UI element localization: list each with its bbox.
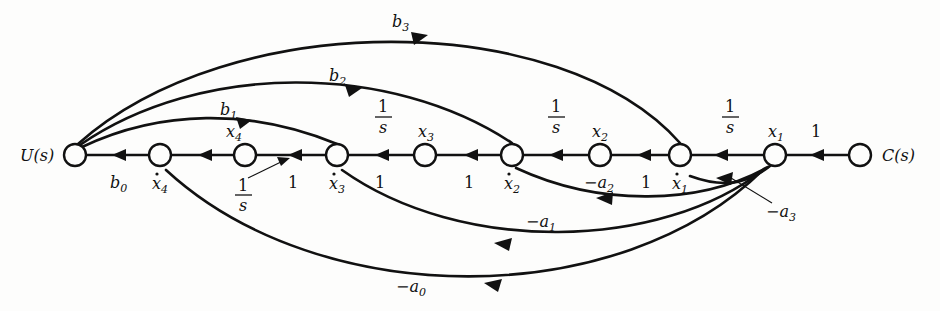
label-gain-a3: −a3 bbox=[766, 202, 796, 224]
arrowhead-x1dot-x1 bbox=[714, 149, 728, 161]
gain-labels-b: b0 b1 b2 b3 bbox=[110, 12, 409, 195]
label-gain-one-b: 1 bbox=[375, 173, 385, 192]
label-input-u: U(s) bbox=[20, 146, 54, 165]
arrowhead-a1 bbox=[494, 238, 512, 251]
node-x1-dot[interactable] bbox=[669, 144, 691, 166]
label-output-c: C(s) bbox=[882, 146, 915, 165]
arrowhead-x3-x2dot bbox=[464, 149, 478, 161]
node-c[interactable] bbox=[849, 144, 871, 166]
label-gain-a1: −a1 bbox=[526, 212, 556, 234]
gain-labels-a: −a0 −a1 −a2 −a3 bbox=[396, 173, 796, 299]
fraction-numerator-a: 1 bbox=[238, 176, 248, 195]
label-x1-dot-below: x1 bbox=[672, 174, 688, 196]
dot-accent-x1 bbox=[675, 172, 678, 175]
label-gain-b3: b3 bbox=[392, 12, 409, 34]
arrowhead-x1-c bbox=[810, 149, 824, 161]
arrowhead-b1 bbox=[236, 117, 252, 129]
node-u[interactable] bbox=[64, 144, 86, 166]
fraction-1-over-s-c: 1 s bbox=[548, 97, 565, 137]
node-x1[interactable] bbox=[764, 144, 786, 166]
fraction-numerator-b: 1 bbox=[378, 97, 388, 116]
label-gain-one-d: 1 bbox=[641, 173, 651, 192]
fraction-denominator-a: s bbox=[239, 196, 247, 215]
fraction-denominator-d: s bbox=[726, 118, 734, 137]
label-x3-above: x3 bbox=[418, 122, 434, 144]
node-x4[interactable] bbox=[234, 144, 256, 166]
arrowhead-x4dot-x4 bbox=[198, 149, 212, 161]
node-x2-dot[interactable] bbox=[501, 144, 523, 166]
arrowhead-a0 bbox=[484, 279, 502, 292]
label-gain-a0: −a0 bbox=[396, 277, 426, 299]
label-gain-b0: b0 bbox=[110, 173, 127, 195]
label-gain-one-a: 1 bbox=[288, 173, 298, 192]
fraction-numerator-d: 1 bbox=[725, 97, 735, 116]
node-x4-dot[interactable] bbox=[149, 144, 171, 166]
edge-b2-u-to-x2dot bbox=[80, 82, 512, 145]
fraction-denominator-c: s bbox=[552, 118, 560, 137]
label-x1-above: x1 bbox=[768, 122, 784, 144]
dot-accent-x4 bbox=[155, 172, 158, 175]
node-x3[interactable] bbox=[414, 144, 436, 166]
fraction-denominator-b: s bbox=[379, 118, 387, 137]
label-x3-dot-below: x3 bbox=[329, 174, 345, 196]
label-gain-one-e: 1 bbox=[811, 122, 821, 141]
arrowhead-x3dot-x3 bbox=[375, 149, 389, 161]
fraction-1-over-s-d: 1 s bbox=[722, 97, 739, 137]
arrowhead-x2dot-x2 bbox=[549, 149, 563, 161]
signal-flow-graph-figure: U(s) C(s) x4 x3 x2 x1 x4 x3 x2 x1 bbox=[0, 0, 940, 311]
fraction-numerator-c: 1 bbox=[551, 97, 561, 116]
dot-accent-x2 bbox=[507, 172, 510, 175]
dot-accent-x3 bbox=[332, 172, 335, 175]
arrowhead-u-x4dot bbox=[112, 149, 126, 161]
fraction-1-over-s-a: 1 s bbox=[235, 176, 252, 215]
label-gain-b2: b2 bbox=[329, 66, 346, 88]
label-gain-a2: −a2 bbox=[584, 173, 614, 195]
label-gain-b1: b1 bbox=[220, 100, 237, 122]
label-x2-above: x2 bbox=[592, 122, 608, 144]
node-x3-dot[interactable] bbox=[326, 144, 348, 166]
label-x2-dot-below: x2 bbox=[504, 174, 520, 196]
arrowhead-x4-x3dot bbox=[288, 149, 302, 161]
label-x4-dot-below: x4 bbox=[152, 174, 168, 196]
node-x2[interactable] bbox=[589, 144, 611, 166]
arrowhead-x2-x1dot bbox=[637, 149, 651, 161]
label-gain-one-c: 1 bbox=[464, 173, 474, 192]
fraction-1-over-s-b: 1 s bbox=[375, 97, 392, 137]
leader-arrowhead-1-over-s bbox=[277, 157, 290, 166]
